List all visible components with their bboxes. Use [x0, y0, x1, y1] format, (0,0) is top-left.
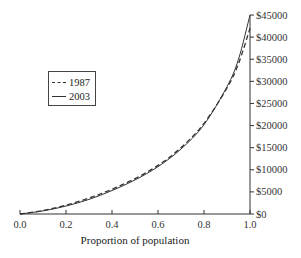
y-tick-label: $5000	[256, 186, 282, 197]
y-tick-label: $15000	[256, 142, 288, 153]
series-line-1987	[20, 28, 250, 214]
x-tick-label: 1.0	[243, 219, 256, 230]
y-tick-label: $20000	[256, 120, 288, 131]
axis-labels: 0.00.20.40.60.81.0$0$5000$10000$15000$20…	[13, 10, 287, 231]
solid-line-swatch-icon	[52, 96, 66, 97]
x-tick-label: 0.2	[59, 219, 72, 230]
y-tick-label: $0	[256, 209, 267, 220]
legend-item-2003: 2003	[52, 91, 90, 102]
y-tick-label: $40000	[256, 32, 288, 43]
y-tick-label: $35000	[256, 54, 288, 65]
axes	[20, 15, 254, 214]
series-line-2003	[20, 15, 250, 214]
legend-label: 1987	[69, 77, 90, 88]
x-tick-label: 0.6	[151, 219, 164, 230]
y-tick-label: $45000	[256, 10, 288, 21]
y-tick-label: $10000	[256, 164, 288, 175]
x-tick-label: 0.4	[105, 219, 119, 230]
dashed-line-swatch-icon	[52, 82, 66, 83]
y-tick-label: $30000	[256, 76, 288, 87]
y-tick-label: $25000	[256, 98, 288, 109]
lorenz-style-chart: 0.00.20.40.60.81.0$0$5000$10000$15000$20…	[0, 0, 301, 258]
series-lines	[20, 15, 250, 214]
x-axis-title: Proportion of population	[81, 234, 190, 246]
x-tick-label: 0.8	[197, 219, 210, 230]
legend-label: 2003	[69, 91, 90, 102]
x-tick-label: 0.0	[13, 219, 26, 230]
legend: 1987 2003	[48, 71, 96, 106]
legend-item-1987: 1987	[52, 77, 90, 88]
